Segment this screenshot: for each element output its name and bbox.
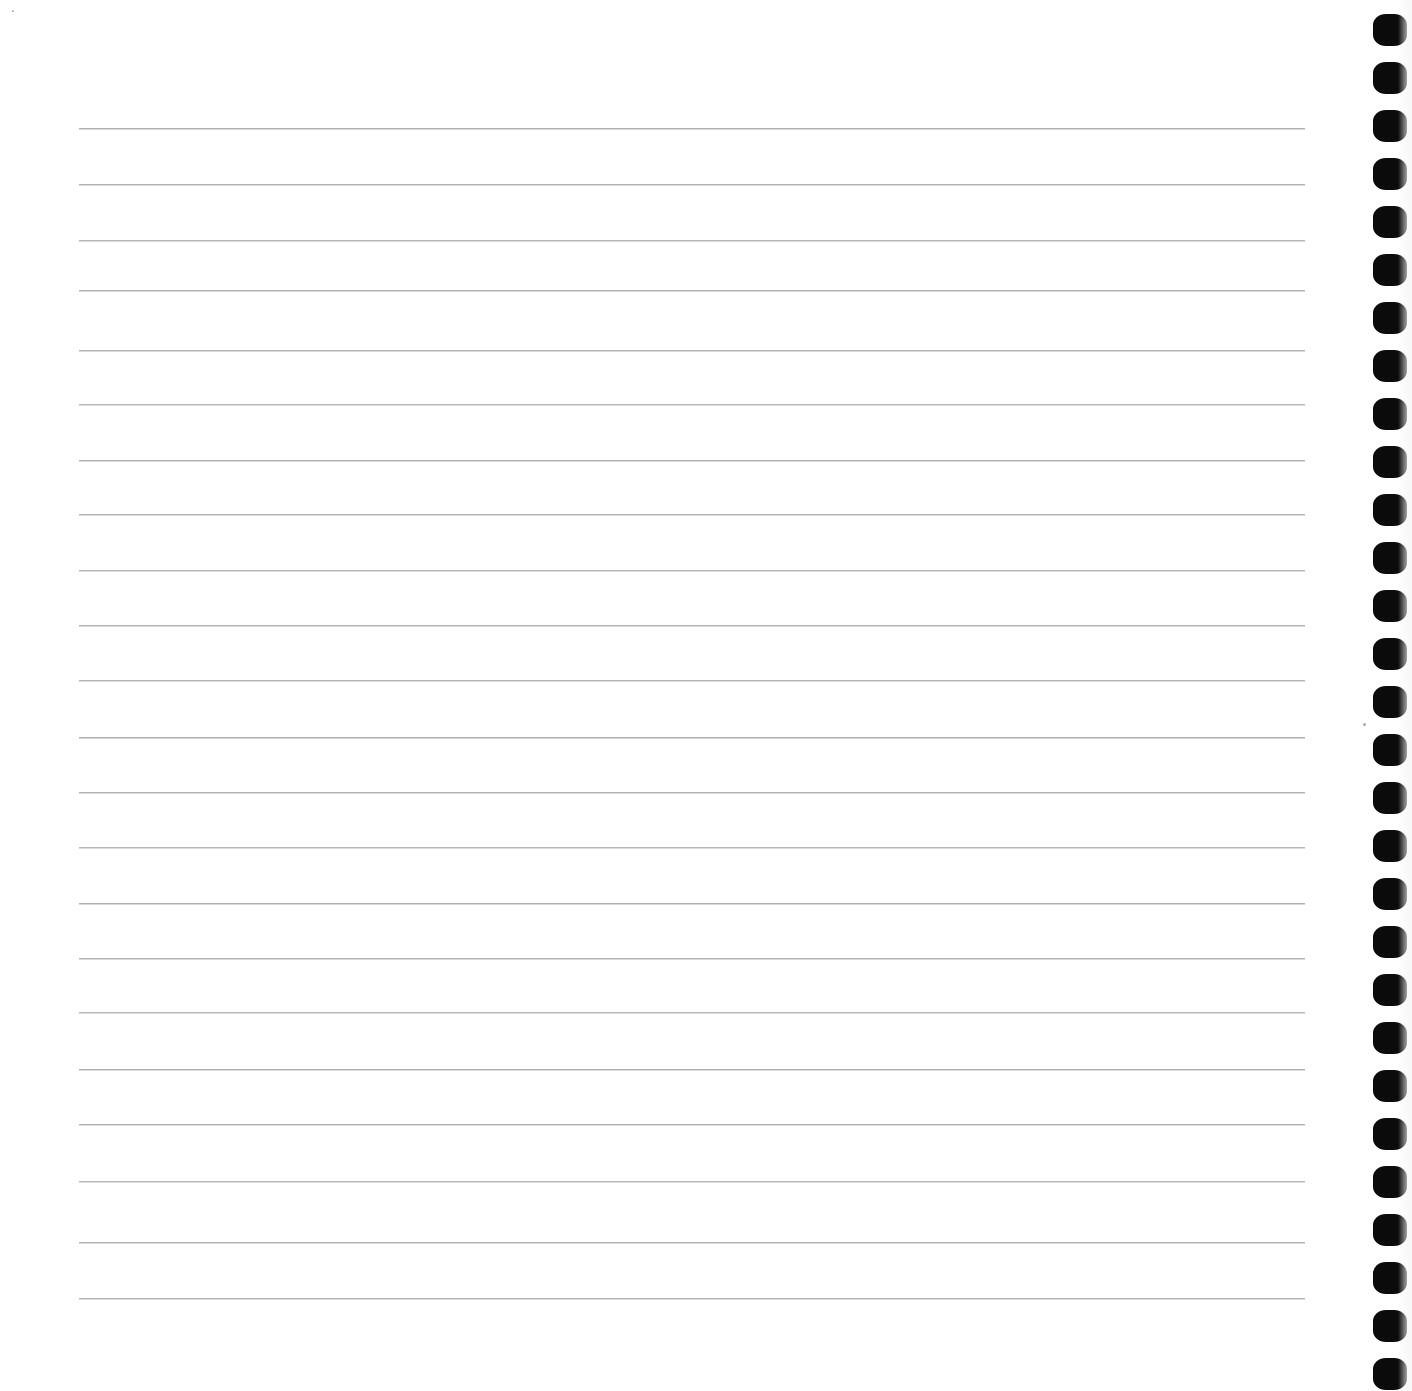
rule-line [79,792,1305,794]
rule-line [79,958,1305,960]
ruled-lines-group [0,0,1412,1391]
scan-speck [1363,723,1366,726]
rule-line [79,1298,1305,1300]
rule-line [79,240,1305,242]
rule-line [79,460,1305,462]
rule-line [79,625,1305,627]
rule-line [79,903,1305,905]
rule-line [79,184,1305,186]
rule-line [79,1069,1305,1071]
rule-line [79,1242,1305,1244]
rule-line [79,1181,1305,1183]
rule-line [79,680,1305,682]
rule-line [79,290,1305,292]
rule-line [79,1124,1305,1126]
page-edge-shade [1398,0,1412,1391]
rule-line [79,847,1305,849]
rule-line [79,404,1305,406]
rule-line [79,1012,1305,1014]
rule-line [79,737,1305,739]
scan-speck [12,10,14,12]
rule-line [79,350,1305,352]
rule-line [79,570,1305,572]
notebook-page [0,0,1412,1391]
rule-line [79,128,1305,130]
rule-line [79,514,1305,516]
